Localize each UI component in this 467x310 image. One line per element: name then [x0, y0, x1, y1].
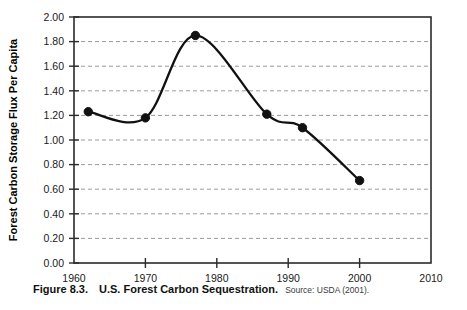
- line-chart: 0.000.200.400.600.801.001.201.401.601.80…: [0, 0, 467, 285]
- y-tick-label: 2.00: [44, 11, 65, 23]
- data-point-marker: [298, 124, 306, 132]
- series-line: [88, 35, 359, 180]
- y-tick-label: 1.60: [44, 60, 65, 72]
- y-tick-label: 1.80: [44, 35, 65, 47]
- y-tick-label: 0.40: [44, 208, 65, 220]
- y-tick-label: 1.40: [44, 85, 65, 97]
- figure-container: 0.000.200.400.600.801.001.201.401.601.80…: [0, 0, 467, 310]
- data-point-marker: [84, 108, 92, 116]
- figure-source: Source: USDA (2001).: [285, 285, 369, 295]
- y-tick-label: 0.00: [44, 257, 65, 269]
- y-tick-label: 1.20: [44, 109, 65, 121]
- y-tick-label: 0.80: [44, 158, 65, 170]
- y-tick-label: 0.20: [44, 232, 65, 244]
- y-axis-title: Forest Carbon Storage Flux Per Capita: [7, 38, 19, 241]
- tick-marks: [69, 17, 360, 268]
- data-point-marker: [263, 110, 271, 118]
- figure-number: Figure 8.3.: [33, 283, 88, 295]
- y-tick-label: 1.00: [44, 134, 65, 146]
- data-point-marker: [355, 176, 363, 184]
- data-point-marker: [191, 31, 199, 39]
- figure-title: U.S. Forest Carbon Sequestration.: [99, 283, 278, 295]
- data-point-marker: [141, 114, 149, 122]
- figure-caption: Figure 8.3. U.S. Forest Carbon Sequestra…: [0, 283, 467, 305]
- gridlines: [74, 42, 431, 239]
- y-axis-tick-labels: 0.000.200.400.600.801.001.201.401.601.80…: [44, 11, 65, 269]
- data-series: [84, 31, 364, 185]
- y-tick-label: 0.60: [44, 183, 65, 195]
